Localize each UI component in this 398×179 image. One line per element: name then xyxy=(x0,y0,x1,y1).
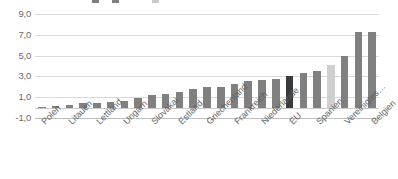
legend-item xyxy=(152,0,162,3)
y-axis-tick-label: 9,0 xyxy=(0,9,31,19)
bar xyxy=(300,73,308,107)
bar xyxy=(148,95,156,107)
bar xyxy=(313,71,321,107)
legend-swatch-icon xyxy=(92,0,99,3)
bar xyxy=(93,103,101,107)
bar xyxy=(355,32,363,108)
y-axis-tick-label: -1,0 xyxy=(0,113,31,123)
legend-item xyxy=(92,0,102,3)
y-axis: 9,07,05,03,01,0-1,0 xyxy=(0,14,33,118)
bar xyxy=(66,105,74,108)
legend-item xyxy=(112,0,122,3)
legend-swatch-icon xyxy=(152,0,159,3)
chart-legend xyxy=(0,0,383,7)
x-axis: PolenLitauenLettlandUngarnSlovakaiEstlan… xyxy=(35,118,379,179)
y-axis-tick-label: 3,0 xyxy=(0,71,31,81)
legend-swatch-icon xyxy=(112,0,119,3)
bar xyxy=(38,107,46,108)
y-axis-tick-label: 1,0 xyxy=(0,92,31,102)
y-axis-tick-label: 7,0 xyxy=(0,30,31,40)
y-axis-tick-label: 5,0 xyxy=(0,51,31,61)
